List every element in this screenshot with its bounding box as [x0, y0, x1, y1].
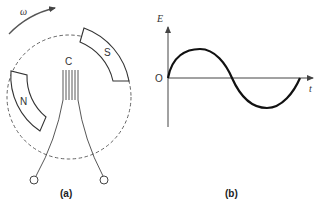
rotation-omega-label: ω — [20, 6, 27, 17]
coil-label: C — [65, 56, 72, 67]
y-axis-label: E — [156, 13, 163, 24]
north-pole-magnet — [11, 71, 46, 131]
x-axis-label: t — [309, 83, 312, 94]
lead-wire-right — [78, 100, 103, 176]
figure-a-generator: ω S N C (a) — [7, 6, 131, 199]
terminal-right — [100, 176, 108, 184]
coil-windings — [63, 70, 78, 100]
origin-label: O — [155, 73, 163, 84]
figure-a-caption: (a) — [60, 188, 72, 199]
rotation-arrow-icon — [9, 8, 55, 34]
figure-b-caption: (b) — [225, 188, 238, 199]
north-pole-label: N — [20, 96, 27, 107]
diagram-canvas: ω S N C (a) E O t — [0, 0, 321, 208]
south-pole-label: S — [104, 47, 111, 58]
figure-b-graph: E O t (b) — [155, 13, 313, 199]
terminal-left — [30, 176, 38, 184]
